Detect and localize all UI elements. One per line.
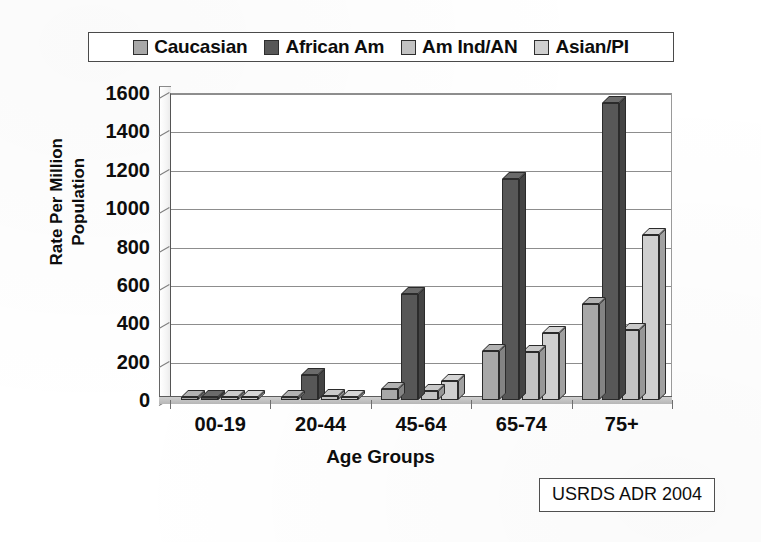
y-axis-tick-label: 1000 [86,198,150,218]
bar-front-face [482,351,499,400]
x-axis-tick-mark [170,400,171,409]
bar-front-face [321,396,338,400]
bar-front-face [221,397,238,400]
x-axis-tick-label: 75+ [562,413,682,436]
bar-group-00-19 [171,94,271,400]
bar-asian-pi-20-44 [341,397,358,400]
bar-am-ind-an-00-19 [221,397,238,400]
bar-front-face [181,397,198,400]
legend-entry-african-am: African Am [264,36,384,58]
legend-entry-caucasian: Caucasian [133,36,247,58]
legend-label: African Am [285,36,384,58]
bar-african-am-20-44 [301,375,318,400]
y-axis-tick-label: 600 [86,275,150,295]
x-axis-tick-mark [572,400,573,409]
bar-front-face [201,397,218,400]
x-axis-tick-mark [270,400,271,409]
bar-caucasian-75 [582,304,599,400]
bar-asian-pi-00-19 [241,397,258,400]
x-axis-tick-mark [672,400,673,409]
x-axis-tick-mark [371,400,372,409]
bar-front-face [582,304,599,400]
y-axis-tick-label: 200 [86,352,150,372]
y-axis-tick-label: 0 [86,390,150,410]
y-axis-tick-label: 1400 [86,121,150,141]
y-axis-tick-label: 400 [86,313,150,333]
y-axis-title: Rate Per Million Population [46,87,90,317]
bar-side-face [539,345,546,400]
bar-am-ind-an-20-44 [321,396,338,400]
x-axis-tick-mark [471,400,472,409]
bar-group-75 [573,94,673,400]
bar-side-face [559,326,566,400]
legend-swatch-icon [534,40,549,55]
legend-label: Asian/PI [555,36,628,58]
y-axis-title-line-1: Rate Per Million [46,87,68,317]
bar-side-face [499,344,506,400]
bar-side-face [659,228,666,400]
chart-legend: CaucasianAfrican AmAm Ind/ANAsian/PI [88,32,674,62]
bar-front-face [341,397,358,400]
legend-label: Caucasian [154,36,247,58]
legend-entry-am-ind-an: Am Ind/AN [401,36,517,58]
bar-front-face [381,389,398,400]
bar-caucasian-00-19 [181,397,198,400]
bar-group-20-44 [271,94,371,400]
bar-caucasian-45-64 [381,389,398,400]
bar-front-face [241,397,258,400]
bar-side-face [519,173,526,400]
x-axis-title: Age Groups [0,446,761,468]
bar-caucasian-20-44 [281,397,298,400]
bar-group-45-64 [372,94,472,400]
bar-side-face [639,323,646,400]
y-axis-tick-label: 800 [86,237,150,257]
legend-entry-asian-pi: Asian/PI [534,36,628,58]
bar-caucasian-65-74 [482,351,499,400]
bar-front-face [281,397,298,400]
legend-swatch-icon [264,40,279,55]
source-note-box: USRDS ADR 2004 [539,478,715,512]
bar-side-face [619,96,626,400]
bar-front-face [301,375,318,400]
y-axis-tick-label: 1200 [86,160,150,180]
bar-african-am-00-19 [201,397,218,400]
legend-swatch-icon [401,40,416,55]
y-axis-tick-label: 1600 [86,83,150,103]
bar-series-container [171,94,671,400]
legend-label: Am Ind/AN [422,36,517,58]
bar-side-face [418,288,425,400]
bar-group-65-74 [472,94,572,400]
plot-area [170,93,672,400]
bar-side-face [599,297,606,400]
